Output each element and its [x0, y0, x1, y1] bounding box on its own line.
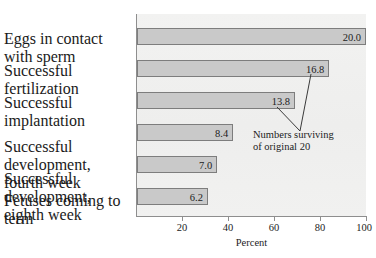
category-label-text: Fetuses coming to term: [4, 192, 120, 227]
bar-row: 7.0: [137, 156, 217, 173]
bar-value-label: 16.8: [306, 63, 324, 74]
x-axis-tick-label: 20: [177, 222, 188, 234]
bar-value-label: 8.4: [215, 127, 228, 138]
bar-row: 20.0: [137, 28, 366, 45]
x-axis-line: [136, 216, 367, 217]
bar-value-label: 6.2: [190, 191, 203, 202]
x-axis-tick: [274, 216, 275, 221]
bar-value-label: 7.0: [199, 159, 212, 170]
x-axis-title: Percent: [136, 237, 367, 248]
category-label-0: Eggs in contact with sperm: [4, 30, 134, 66]
x-axis-tick-label: 80: [315, 222, 326, 234]
bar-chart-figure: Eggs in contact with sperm Successful fe…: [0, 0, 376, 258]
x-axis-tick: [366, 216, 367, 221]
bar-value-label: 13.8: [272, 95, 290, 106]
bar-row: 6.2: [137, 188, 208, 205]
annotation-text: Numbers surviving of original 20: [253, 129, 365, 153]
x-axis-tick-label: 100: [356, 222, 372, 234]
bar-row: 8.4: [137, 124, 233, 141]
plot-area: 20.0 16.8 13.8 8.4 7.0 6.2: [136, 14, 366, 216]
x-axis-tick-label: 40: [223, 222, 234, 234]
x-axis-tick: [228, 216, 229, 221]
bar-row: 16.8: [137, 60, 329, 77]
x-axis-tick: [320, 216, 321, 221]
x-axis-tick-label: 60: [269, 222, 280, 234]
category-label-text: Successful fertilization: [4, 62, 79, 97]
category-label-1: Successful fertilization: [4, 62, 134, 98]
category-label-5: Fetuses coming to term: [4, 192, 134, 228]
category-axis-labels: Eggs in contact with sperm Successful fe…: [4, 0, 134, 258]
bar-value-label: 20.0: [343, 31, 361, 42]
bar-row: 13.8: [137, 92, 295, 109]
category-label-text: Eggs in contact with sperm: [4, 30, 103, 65]
x-axis-tick: [182, 216, 183, 221]
